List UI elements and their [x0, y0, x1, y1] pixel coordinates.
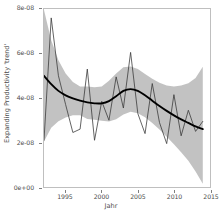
x-tick-mark	[211, 190, 212, 193]
y-tick-label: 4e-08	[17, 95, 34, 101]
x-tick-mark	[101, 190, 102, 193]
y-axis-title: Expanding Productivity 'trend'	[4, 0, 11, 186]
y-tick-label: 2e-08	[17, 140, 34, 146]
y-tick-label: 6e-08	[17, 50, 34, 56]
plot-panel	[43, 8, 211, 188]
x-tick-label: 2010	[167, 194, 182, 200]
x-axis-title: Jahr	[0, 203, 222, 210]
y-tick-label: 8e-08	[17, 5, 34, 11]
x-tick-mark	[174, 190, 175, 193]
y-tick-mark	[39, 143, 42, 144]
chart-figure: 0e+002e-084e-086e-088e-08 19952000200520…	[0, 0, 222, 214]
plot-svg	[44, 9, 210, 187]
y-tick-mark	[39, 98, 42, 99]
x-tick-mark	[65, 190, 66, 193]
x-tick-label: 2000	[94, 194, 109, 200]
y-tick-mark	[39, 8, 42, 9]
x-tick-label: 1995	[57, 194, 72, 200]
x-tick-mark	[138, 190, 139, 193]
y-tick-mark	[39, 53, 42, 54]
x-tick-label: 2005	[130, 194, 145, 200]
x-tick-label: 2015	[203, 194, 218, 200]
y-tick-mark	[39, 188, 42, 189]
